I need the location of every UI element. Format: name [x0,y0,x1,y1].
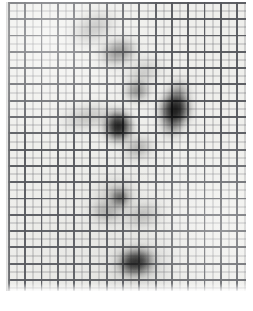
blot-spot [68,8,117,48]
blot-spot [124,57,161,88]
blot-spot [90,203,122,222]
paper-shading-overlay [8,2,246,291]
sheet-margin-right [246,0,253,311]
sheet-margin-top [0,0,253,2]
scanned-image-canvas [0,0,253,311]
blot-spot [103,109,133,142]
sheet-margin-bottom [0,291,253,311]
grid-fine-rulings [8,2,246,291]
blot-spot [125,80,150,102]
blot-spot [165,118,179,136]
blot-spot [62,105,112,129]
sheet-edge-shadow [6,2,11,291]
blot-spot [158,90,192,129]
blot-spot [99,37,138,67]
blot-spot [111,242,169,285]
blot-spot [123,136,153,161]
graph-paper-sheet [8,2,246,291]
blot-spot [123,202,162,227]
blot-spot [113,191,127,205]
grid-coarse-rulings [8,2,246,291]
blot-spot [168,79,189,106]
blot-spot [97,178,135,211]
blot-spot [117,248,154,276]
